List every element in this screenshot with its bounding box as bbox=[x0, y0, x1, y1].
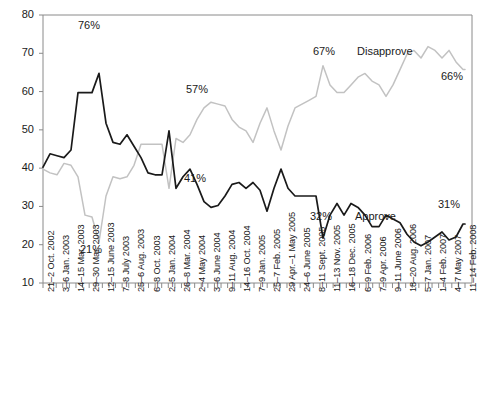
x-axis-tick-label: 26–8 Mar. 2004 bbox=[183, 230, 192, 292]
approve-line bbox=[43, 73, 465, 245]
x-axis-tick-label: 8–11 Sept. 2005 bbox=[318, 227, 327, 292]
x-axis-tick-label: 16–18 Dec. 2005 bbox=[348, 224, 357, 292]
x-axis-tick-label: 9–11 June 2006 bbox=[394, 228, 403, 292]
x-axis-tick-label: 29 Apr.–1 May 2005 bbox=[288, 212, 297, 292]
plot-svg bbox=[0, 0, 490, 410]
x-axis-tick-label: 6–8 Oct. 2003 bbox=[153, 236, 162, 292]
y-axis-tick-label: 30 bbox=[8, 200, 34, 211]
value-annotation: 66% bbox=[441, 71, 463, 82]
x-axis-tick-label: 9–11 Aug. 2004 bbox=[228, 230, 237, 292]
x-axis-tick-label: 3–6 Jan. 2003 bbox=[62, 235, 71, 292]
y-axis-tick-label: 50 bbox=[8, 124, 34, 135]
x-axis-tick-label: 11–13 Nov. 2005 bbox=[333, 225, 342, 292]
value-annotation: 31% bbox=[438, 199, 460, 210]
y-axis-tick-label: 70 bbox=[8, 47, 34, 58]
y-axis-tick-label: 20 bbox=[8, 239, 34, 250]
series-label-disapprove: Disapprove bbox=[357, 46, 413, 57]
value-annotation: 41% bbox=[184, 173, 206, 184]
x-axis-tick-label: 1–4 Feb. 2007 bbox=[439, 234, 448, 292]
x-axis-tick-label: 2–4 May 2004 bbox=[198, 235, 207, 292]
y-axis-tick-label: 40 bbox=[8, 162, 34, 173]
x-axis-tick-label: 2–5 Jan. 2004 bbox=[168, 235, 177, 292]
y-axis-tick-label: 10 bbox=[8, 277, 34, 288]
x-axis-tick-label: 24–6 June 2005 bbox=[303, 227, 312, 292]
value-annotation: 67% bbox=[313, 46, 335, 57]
x-axis-tick-label: 7–8 July 2003 bbox=[122, 236, 131, 292]
x-axis-tick-label: 29–30 Mar. 2003 bbox=[92, 225, 101, 292]
value-annotation: 21% bbox=[80, 244, 102, 255]
y-axis-tick-label: 80 bbox=[8, 9, 34, 20]
approve-disapprove-line-chart: 1020304050607080 21–2 Oct. 20023–6 Jan. … bbox=[0, 0, 490, 410]
y-axis-ticks bbox=[39, 15, 43, 283]
x-axis-tick-label: 3–6 June 2004 bbox=[213, 233, 222, 293]
x-axis-tick-label: 7–9 Apr. 2006 bbox=[379, 237, 388, 292]
value-annotation: 32% bbox=[310, 211, 332, 222]
value-annotation: 76% bbox=[78, 20, 100, 31]
y-axis-tick-label: 60 bbox=[8, 86, 34, 97]
x-axis-tick-label: 14–15 Mar. 2003 bbox=[77, 225, 86, 292]
x-axis-tick-label: 7–9 Jan. 2005 bbox=[258, 235, 267, 292]
x-axis-tick-label: 14–16 Oct. 2004 bbox=[243, 226, 252, 292]
series-label-approve: Approve bbox=[355, 211, 396, 222]
x-axis-tick-label: 25–6 Aug. 2003 bbox=[137, 229, 146, 292]
x-axis-tick-label: 18–20 Aug. 2006 bbox=[409, 224, 418, 292]
x-axis-tick-label: 5–7 Jan. 2007 bbox=[424, 235, 433, 292]
data-series-group bbox=[43, 47, 465, 246]
x-axis-tick-label: 21–2 Oct. 2002 bbox=[47, 231, 56, 292]
value-annotation: 57% bbox=[186, 84, 208, 95]
x-axis-tick-label: 6–9 Feb. 2006 bbox=[364, 234, 373, 292]
x-axis-tick-label: 12–15 June 2003 bbox=[107, 222, 116, 292]
x-axis-tick-label: 11–14 Feb. 2008 bbox=[469, 225, 478, 292]
x-axis-tick-label: 25–7 Feb. 2005 bbox=[273, 229, 282, 292]
x-axis-tick-label: 4–7 May 2007 bbox=[454, 235, 463, 292]
disapprove-line bbox=[43, 47, 465, 242]
